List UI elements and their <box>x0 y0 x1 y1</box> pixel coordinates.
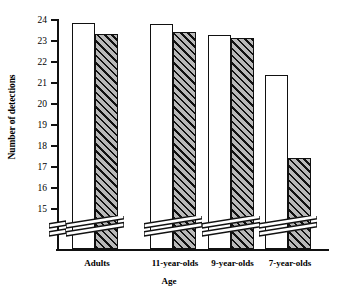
y-tick-label: 19 <box>25 120 47 130</box>
y-tick-label: 24 <box>25 15 47 25</box>
bar-hatched <box>231 38 254 249</box>
y-tick-label: 16 <box>25 183 47 193</box>
x-axis-title: Age <box>0 276 338 286</box>
chart-figure: Number of detections 1516171819202122232… <box>0 0 338 294</box>
y-tick-label: 22 <box>25 57 47 67</box>
bar-open <box>265 75 288 249</box>
y-axis-line <box>57 19 59 249</box>
y-tick-label: 21 <box>25 78 47 88</box>
y-tick-label: 18 <box>25 141 47 151</box>
x-axis-line <box>56 249 329 251</box>
y-tick-label: 17 <box>25 162 47 172</box>
y-tick-label: 15 <box>25 204 47 214</box>
bar-hatched <box>288 158 311 249</box>
x-tick-label: Adults <box>57 258 137 269</box>
x-tick-label: 7-year-olds <box>250 258 330 269</box>
bar-open <box>150 24 173 249</box>
bar-open <box>208 35 231 249</box>
bar-hatched <box>95 34 118 249</box>
bar-open <box>72 23 95 249</box>
y-axis-title: Number of detections <box>7 47 17 187</box>
y-tick-label: 20 <box>25 99 47 109</box>
bar-hatched <box>173 32 196 249</box>
y-tick-label: 23 <box>25 36 47 46</box>
